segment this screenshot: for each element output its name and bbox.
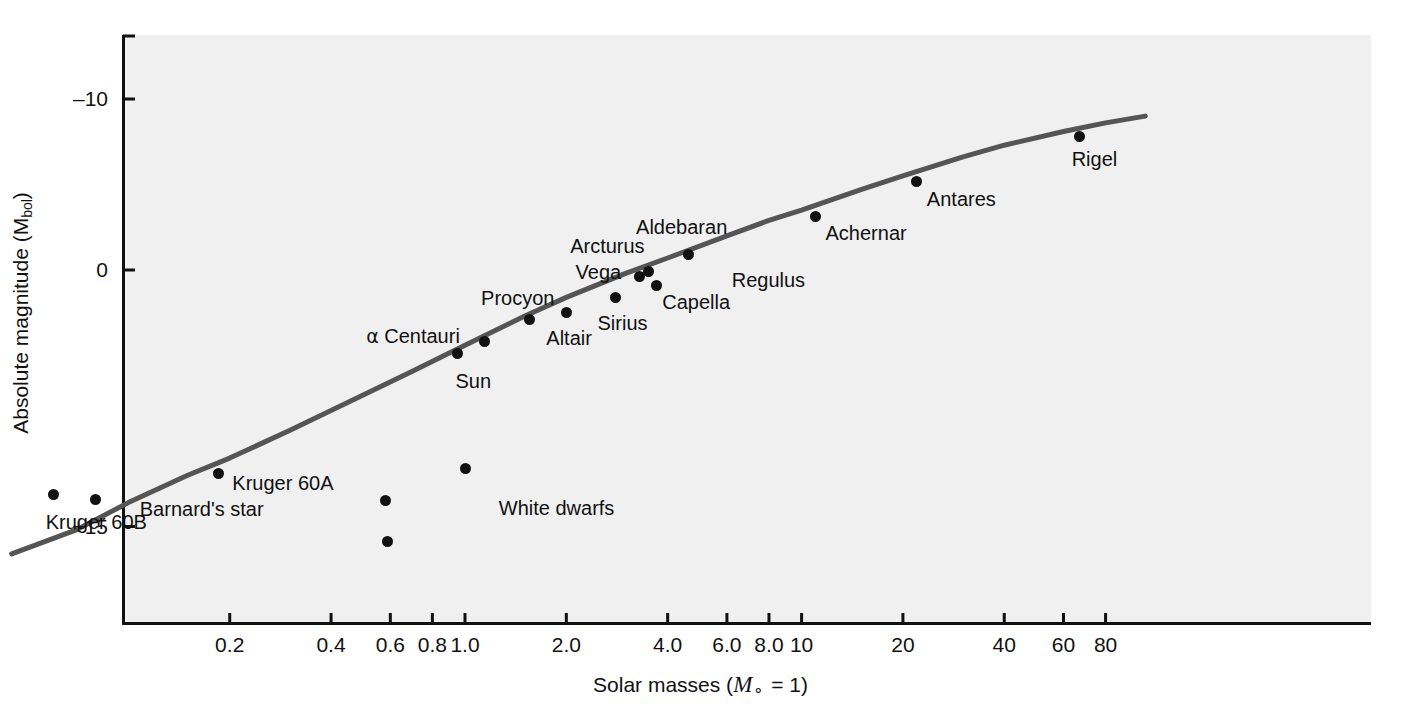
data-point-antares (911, 176, 922, 187)
label-kruger-60b: Kruger 60B (46, 512, 147, 532)
label-vega: Vega (576, 262, 622, 282)
x-tick-label: 8.0 (754, 634, 783, 655)
x-tick-label: 1.0 (450, 634, 479, 655)
label-arcturus: Arcturus (570, 236, 644, 256)
label-capella: Capella (662, 292, 730, 312)
label-achernar: Achernar (826, 223, 907, 243)
x-tick-label: 2.0 (552, 634, 581, 655)
data-point-procyon (524, 314, 535, 325)
label-barnard-s-star: Barnard's star (140, 499, 264, 519)
label-centauri: α Centauri (366, 326, 460, 346)
label-kruger-60a: Kruger 60A (232, 473, 333, 493)
label-white-dwarfs: White dwarfs (499, 498, 615, 518)
data-point (460, 463, 471, 474)
x-tick-label: 10 (790, 634, 813, 655)
x-tick-label: 0.8 (418, 634, 447, 655)
data-point-altair (561, 307, 572, 318)
label-antares: Antares (927, 189, 996, 209)
x-tick-label: 0.6 (376, 634, 405, 655)
label-aldebaran: Aldebaran (636, 217, 727, 237)
x-tick-label: 40 (993, 634, 1016, 655)
data-point-aldebaran (683, 249, 694, 260)
data-point-centauri (479, 336, 490, 347)
label-rigel: Rigel (1072, 149, 1118, 169)
data-point-barnard-s-star (90, 494, 101, 505)
data-point-sirius (610, 292, 621, 303)
data-point-kruger-60a (213, 468, 224, 479)
x-tick-label: 20 (891, 634, 914, 655)
plot-area (122, 35, 1371, 625)
data-point-arcturus (643, 266, 654, 277)
x-tick-label: 80 (1094, 634, 1117, 655)
x-tick-label: 0.4 (316, 634, 345, 655)
x-tick-label: 6.0 (712, 634, 741, 655)
y-axis-title-text: Absolute magnitude (Mbol) (9, 192, 32, 434)
label-regulus: Regulus (732, 270, 805, 290)
x-axis-title: Solar masses (M⚬ = 1) (0, 672, 1401, 700)
y-axis-title: Absolute magnitude (Mbol) (9, 33, 35, 593)
chart-canvas: –100+15 Absolute magnitude (Mbol) 0.20.4… (0, 0, 1401, 719)
label-sun: Sun (456, 371, 492, 391)
label-sirius: Sirius (598, 313, 648, 333)
label-altair: Altair (546, 328, 592, 348)
x-tick-label: 4.0 (653, 634, 682, 655)
data-point-kruger-60b (48, 489, 59, 500)
data-point-capella (651, 280, 662, 291)
label-procyon: Procyon (481, 288, 554, 308)
x-tick-label: 60 (1052, 634, 1075, 655)
x-tick-label: 0.2 (215, 634, 244, 655)
